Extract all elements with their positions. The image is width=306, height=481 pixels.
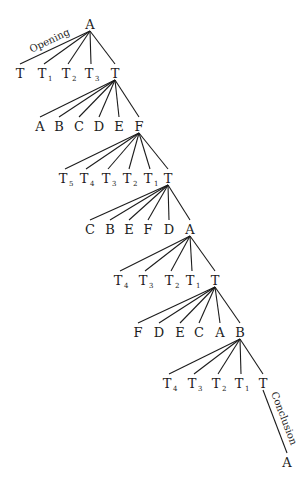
tree-node: T bbox=[211, 273, 220, 288]
tree-edge bbox=[148, 185, 168, 220]
tree-node: T bbox=[259, 376, 268, 391]
tree-node: T3 bbox=[139, 273, 154, 290]
tree-node: A bbox=[34, 119, 45, 134]
tree-nodes: ATT1T2T3TABCDEFT5T4T3T2T1TCBEFDAT4T3T2T1… bbox=[16, 17, 293, 470]
node-subscript: 2 bbox=[175, 282, 179, 290]
node-label: A bbox=[214, 325, 225, 340]
node-label: T bbox=[62, 66, 71, 81]
node-label: E bbox=[124, 222, 134, 237]
tree-edge bbox=[168, 185, 190, 220]
tree-edge bbox=[145, 236, 190, 271]
tree-node: C bbox=[194, 325, 204, 340]
tree-node: A bbox=[281, 455, 292, 470]
tree-edge bbox=[168, 185, 169, 220]
node-subscript: 2 bbox=[72, 75, 76, 83]
tree-node: T bbox=[164, 171, 173, 186]
tree-edge bbox=[40, 80, 115, 117]
tree-edge bbox=[90, 185, 168, 220]
node-label: T bbox=[188, 376, 197, 391]
tree-edge bbox=[240, 339, 241, 374]
tree-node: T1 bbox=[235, 376, 250, 393]
tree-edge bbox=[110, 185, 168, 220]
tree-node: D bbox=[154, 325, 164, 340]
node-label: D bbox=[94, 119, 104, 134]
node-subscript: 3 bbox=[149, 282, 153, 290]
node-label: E bbox=[114, 119, 124, 134]
tree-edge bbox=[139, 133, 168, 169]
node-label: T bbox=[80, 171, 89, 186]
node-label: C bbox=[85, 222, 95, 237]
node-label: A bbox=[281, 455, 292, 470]
node-label: T bbox=[212, 376, 221, 391]
tree-edge bbox=[79, 80, 115, 117]
node-label: T bbox=[165, 273, 174, 288]
node-label: T bbox=[186, 273, 195, 288]
tree-node: T4 bbox=[114, 273, 129, 290]
tree-node: T bbox=[16, 66, 25, 81]
tree-node: E bbox=[124, 222, 134, 237]
tree-node: E bbox=[114, 119, 124, 134]
tree-node: T3 bbox=[102, 171, 117, 188]
node-label: A bbox=[34, 119, 45, 134]
node-subscript: 1 bbox=[245, 385, 249, 393]
node-label: T bbox=[144, 171, 153, 186]
tree-node: T2 bbox=[123, 171, 138, 188]
node-label: T bbox=[59, 171, 68, 186]
tree-node: T2 bbox=[165, 273, 180, 290]
tree-node: F bbox=[143, 222, 152, 237]
node-label: T bbox=[211, 273, 220, 288]
tree-node: T bbox=[111, 66, 120, 81]
tree-node: B bbox=[105, 222, 115, 237]
tree-node: F bbox=[133, 325, 142, 340]
node-subscript: 3 bbox=[95, 75, 99, 83]
node-label: F bbox=[143, 222, 152, 237]
tree-node: B bbox=[235, 325, 245, 340]
node-subscript: 4 bbox=[173, 385, 178, 393]
node-label: T bbox=[85, 66, 94, 81]
tree-edge bbox=[139, 133, 150, 169]
node-label: B bbox=[105, 222, 115, 237]
node-subscript: 5 bbox=[69, 180, 73, 188]
node-label: A bbox=[184, 222, 195, 237]
tree-node: T4 bbox=[163, 376, 178, 393]
tree-edge bbox=[120, 236, 190, 271]
tree-node: T3 bbox=[85, 66, 100, 83]
tree-node: T1 bbox=[186, 273, 201, 290]
node-label: T bbox=[164, 171, 173, 186]
node-label: T bbox=[139, 273, 148, 288]
node-label: T bbox=[16, 66, 25, 81]
tree-node: E bbox=[175, 325, 185, 340]
node-label: D bbox=[164, 222, 174, 237]
node-label: C bbox=[194, 325, 204, 340]
tree-edge bbox=[194, 339, 240, 374]
tree-node: A bbox=[84, 17, 95, 32]
node-label: B bbox=[54, 119, 64, 134]
tree-node: T2 bbox=[62, 66, 77, 83]
tree-edge bbox=[190, 236, 215, 271]
node-label: T bbox=[123, 171, 132, 186]
tree-node: B bbox=[54, 119, 64, 134]
tree-edge bbox=[190, 236, 192, 271]
tree-node: T1 bbox=[38, 66, 53, 83]
node-label: T bbox=[114, 273, 123, 288]
node-subscript: 1 bbox=[154, 180, 158, 188]
node-label: F bbox=[134, 119, 143, 134]
node-subscript: 2 bbox=[133, 180, 137, 188]
node-subscript: 1 bbox=[48, 75, 52, 83]
node-subscript: 4 bbox=[124, 282, 129, 290]
tree-node: T1 bbox=[144, 171, 159, 188]
tree-node: D bbox=[164, 222, 174, 237]
node-subscript: 4 bbox=[90, 180, 95, 188]
node-subscript: 3 bbox=[198, 385, 202, 393]
node-label: T bbox=[235, 376, 244, 391]
tree-edge bbox=[90, 31, 115, 64]
tree-node: T2 bbox=[212, 376, 227, 393]
node-label: T bbox=[259, 376, 268, 391]
node-label: D bbox=[154, 325, 164, 340]
tree-edge bbox=[138, 287, 215, 323]
tree-node: T4 bbox=[80, 171, 95, 188]
tree-node: C bbox=[74, 119, 84, 134]
node-label: E bbox=[175, 325, 185, 340]
tree-node: C bbox=[85, 222, 95, 237]
tree-edge bbox=[240, 339, 263, 374]
